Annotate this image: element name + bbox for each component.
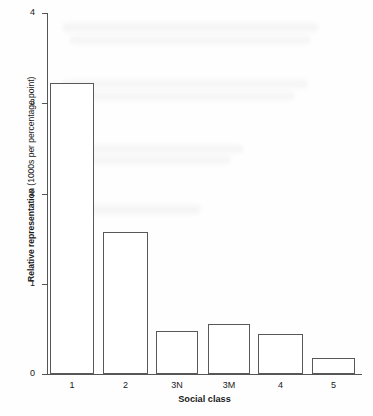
y-axis-tick <box>42 194 47 195</box>
bar-social-class-2 <box>103 232 148 374</box>
y-axis-title-bold: Relative representation <box>26 188 36 282</box>
y-axis-line <box>47 13 48 374</box>
y-axis-title-regular: (1000s per percentage point) <box>26 77 36 188</box>
y-axis-tick-label: 4 <box>15 8 35 17</box>
bar-chart: Relative representation (1000s per perce… <box>0 0 373 416</box>
x-axis-title: Social class <box>47 395 362 404</box>
x-axis-tick-label: 3M <box>209 381 249 390</box>
x-axis-tick-label: 5 <box>313 381 354 390</box>
y-axis-tick <box>42 374 47 375</box>
plot-area: 0 1 2 3 4 1 2 3N 3M 4 5 <box>47 13 362 374</box>
x-axis-tick-label: 4 <box>260 381 301 390</box>
x-axis-tick-label: 3N <box>157 381 197 390</box>
x-axis-tick-label: 1 <box>52 381 92 390</box>
y-axis-tick <box>42 13 47 14</box>
y-axis-tick <box>42 284 47 285</box>
y-axis-title: Relative representation (1000s per perce… <box>27 54 36 304</box>
y-axis-tick-label: 0 <box>15 369 35 378</box>
x-axis-tick-label: 2 <box>105 381 146 390</box>
bar-social-class-4 <box>258 334 303 374</box>
x-axis-line <box>47 374 362 375</box>
bar-social-class-5 <box>312 358 355 374</box>
y-axis-tick-label: 2 <box>15 189 35 198</box>
y-axis-tick-label: 3 <box>15 98 35 107</box>
bar-social-class-3n <box>156 331 198 374</box>
y-axis-tick-label: 1 <box>15 279 35 288</box>
bar-social-class-3m <box>208 324 250 374</box>
bar-social-class-1 <box>50 83 94 374</box>
y-axis-tick <box>42 103 47 104</box>
